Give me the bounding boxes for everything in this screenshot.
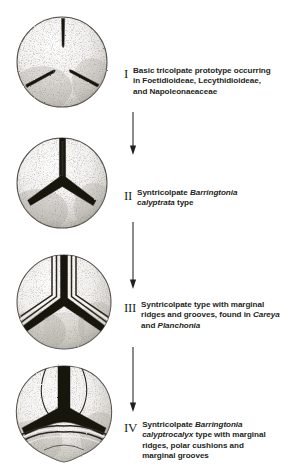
stage-numeral-4: IV	[124, 420, 137, 434]
pollen-grain-syntricolpate-calyptrata	[8, 129, 116, 237]
stage-caption-text-2: Syntricolpate Barringtoniacalyptrata typ…	[137, 188, 237, 209]
stage-numeral-1: I	[124, 66, 128, 80]
stage-numeral-3: III	[124, 300, 136, 314]
stage-numeral-2: II	[124, 188, 132, 202]
stage-caption-2: II Syntricolpate Barringtoniacalyptrata …	[124, 188, 237, 209]
stage-caption-3: III Syntricolpate type with marginalridg…	[124, 300, 280, 331]
arrow-stage-3-to-4	[128, 347, 138, 413]
arrow-stage-2-to-3	[128, 222, 138, 290]
stage-caption-text-3: Syntricolpate type with marginalridges a…	[141, 300, 280, 331]
stage-caption-1: I Basic tricolpate prototype occurringin…	[124, 66, 271, 97]
stage-caption-text-1: Basic tricolpate prototype occurringin F…	[133, 66, 271, 97]
stage-caption-4: IV Syntricolpate Barringtoniacalyptrocal…	[124, 420, 266, 462]
arrow-stage-1-to-2	[128, 112, 138, 156]
stage-caption-text-4: Syntricolpate Barringtoniacalyptrocalyx …	[142, 420, 265, 462]
pollen-grain-polar-cushions	[8, 362, 120, 466]
pollen-grain-marginal-ridges	[8, 246, 120, 358]
pollen-grain-tricolpate	[8, 8, 116, 116]
